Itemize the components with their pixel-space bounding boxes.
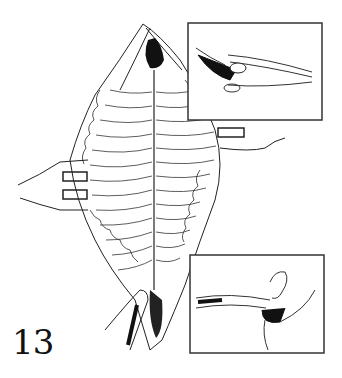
- lower-opening: [150, 290, 163, 338]
- inset-top: [188, 23, 322, 120]
- upper-opening: [145, 38, 164, 68]
- surgical-illustration: 13: [0, 0, 342, 378]
- right-retractor: [218, 128, 285, 150]
- left-retractor: [18, 160, 88, 210]
- inset-bottom: [190, 255, 324, 353]
- figure-number: 13: [12, 322, 53, 362]
- bottom-instrument: [105, 290, 148, 350]
